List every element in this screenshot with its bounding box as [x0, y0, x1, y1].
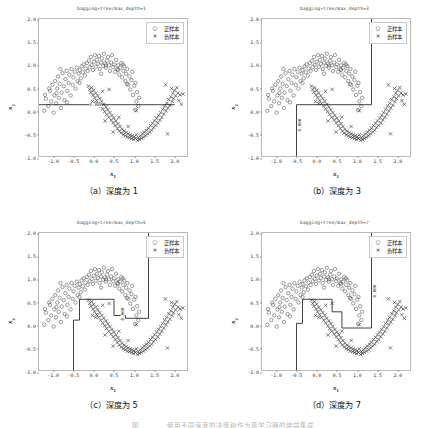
panel-c: bagging+tree/max_depth=52.01.51.00.50.0-… — [0, 214, 223, 428]
x-tick-label: 2.0 — [393, 159, 402, 164]
y-axis-label: x2 — [6, 104, 15, 110]
panel-d: bagging+tree/max_depth=72.01.51.00.50.0-… — [223, 214, 446, 428]
y-tick-label: 0.5 — [250, 86, 259, 91]
x-axis-label: x1 — [38, 170, 188, 179]
legend-row: ✕负样本 — [373, 33, 402, 41]
circle-marker: ○ — [150, 26, 160, 32]
x-tick-label: -0.5 — [68, 373, 80, 378]
y-tick-label: -0.5 — [247, 346, 259, 351]
x-axis-label: x1 — [38, 384, 188, 393]
x-tick-label: 0.5 — [333, 373, 342, 378]
plot-axes: 2.01.51.00.50.0-0.5-1.0-1.0-0.50.00.51.0… — [261, 18, 411, 157]
x-tick-label: -1.0 — [270, 159, 282, 164]
x-tick-label: -0.5 — [291, 159, 303, 164]
legend-row: ○正样本 — [373, 239, 402, 247]
y-tick-label: 1.5 — [250, 40, 259, 45]
plot-axes: 2.01.51.00.50.0-0.5-1.0-1.0-0.50.00.51.0… — [38, 232, 188, 371]
x-tick-label: 1.5 — [373, 373, 382, 378]
y-tick-label: 0.0 — [27, 323, 36, 328]
plot-axes: 2.01.51.00.50.0-0.5-1.0-1.0-0.50.00.51.0… — [261, 232, 411, 371]
legend-row: ○正样本 — [150, 239, 179, 247]
panel-caption: （a）深度为 1 — [0, 184, 223, 196]
plot-legend: ○正样本✕负样本 — [369, 236, 407, 258]
y-tick-label: 2.0 — [250, 231, 259, 236]
legend-row: ○正样本 — [373, 25, 402, 33]
x-tick-label: 0.5 — [110, 159, 119, 164]
positive-samples — [266, 266, 364, 328]
figure-caption: 图 使用不同深度的决策树作为基学习器的装袋集成 — [0, 420, 446, 428]
y-tick-label: 0.5 — [27, 86, 36, 91]
x-tick-label: -0.5 — [291, 373, 303, 378]
x-tick-label: 1.0 — [130, 159, 139, 164]
x-tick-label: -1.0 — [47, 373, 59, 378]
y-tick-label: 0.0 — [250, 109, 259, 114]
positive-samples — [43, 266, 141, 328]
legend-label: 正样本 — [387, 25, 402, 33]
y-tick-label: -1.0 — [24, 156, 36, 161]
y-tick-label: -1.0 — [247, 370, 259, 375]
y-tick-label: 1.0 — [27, 277, 36, 282]
x-axis-label: x1 — [261, 384, 411, 393]
x-tick-label: 1.0 — [353, 159, 362, 164]
circle-marker: ○ — [150, 240, 160, 246]
cross-marker: ✕ — [373, 248, 383, 254]
cross-marker: ✕ — [373, 34, 383, 40]
legend-label: 正样本 — [164, 239, 179, 247]
cross-marker: ✕ — [150, 248, 160, 254]
legend-label: 正样本 — [164, 25, 179, 33]
x-tick-label: 1.5 — [373, 159, 382, 164]
panel-b: bagging+tree/max_depth=32.01.51.00.50.0-… — [223, 0, 446, 214]
legend-row: ○正样本 — [150, 25, 179, 33]
y-tick-label: 0.5 — [250, 300, 259, 305]
panel-caption: （d）深度为 7 — [223, 398, 446, 410]
y-tick-label: 1.5 — [27, 254, 36, 259]
y-tick-label: -0.5 — [24, 346, 36, 351]
plot-legend: ○正样本✕负样本 — [146, 22, 184, 44]
x-tick-label: 1.5 — [150, 159, 159, 164]
legend-label: 负样本 — [164, 33, 179, 41]
x-tick-label: 0.0 — [312, 159, 321, 164]
plot-title: bagging+tree/max_depth=3 — [223, 6, 446, 11]
y-tick-label: 1.0 — [27, 63, 36, 68]
y-tick-label: 2.0 — [27, 17, 36, 22]
y-tick-label: 2.0 — [27, 231, 36, 236]
legend-row: ✕负样本 — [373, 247, 402, 255]
x-tick-label: -1.0 — [47, 159, 59, 164]
legend-label: 正样本 — [387, 239, 402, 247]
x-tick-label: 0.0 — [89, 159, 98, 164]
legend-label: 负样本 — [387, 33, 402, 41]
y-axis-label: x2 — [229, 104, 238, 110]
x-tick-label: 0.0 — [312, 373, 321, 378]
plot-axes: 2.01.51.00.50.0-0.5-1.0-1.0-0.50.00.51.0… — [38, 18, 188, 157]
y-tick-label: 1.0 — [250, 277, 259, 282]
x-tick-label: 0.5 — [110, 373, 119, 378]
y-tick-label: -1.0 — [24, 370, 36, 375]
x-tick-label: -1.0 — [270, 373, 282, 378]
y-axis-label: x2 — [6, 318, 15, 324]
x-tick-label: 2.0 — [170, 373, 179, 378]
legend-label: 负样本 — [164, 247, 179, 255]
y-tick-label: 1.5 — [250, 254, 259, 259]
plot-title: bagging+tree/max_depth=7 — [223, 220, 446, 225]
y-tick-label: 0.5 — [27, 300, 36, 305]
y-tick-label: -1.0 — [247, 156, 259, 161]
y-tick-label: 0.0 — [27, 109, 36, 114]
panel-caption: （b）深度为 3 — [223, 184, 446, 196]
legend-label: 负样本 — [387, 247, 402, 255]
y-tick-label: 2.0 — [250, 17, 259, 22]
x-tick-label: 1.0 — [353, 373, 362, 378]
x-tick-label: 0.0 — [89, 373, 98, 378]
x-tick-label: 0.5 — [333, 159, 342, 164]
contour-level-label: 0.000 — [298, 119, 302, 133]
x-tick-label: -0.5 — [68, 159, 80, 164]
y-tick-label: -0.5 — [24, 132, 36, 137]
x-tick-label: 1.0 — [130, 373, 139, 378]
x-axis-label: x1 — [261, 170, 411, 179]
contour-level-label: 0.000 — [373, 284, 377, 298]
contour-level-label: 0.000 — [89, 103, 103, 107]
y-tick-label: 0.0 — [250, 323, 259, 328]
panel-caption: （c）深度为 5 — [0, 398, 223, 410]
y-tick-label: 1.0 — [250, 63, 259, 68]
plot-legend: ○正样本✕负样本 — [146, 236, 184, 258]
x-tick-label: 2.0 — [393, 373, 402, 378]
